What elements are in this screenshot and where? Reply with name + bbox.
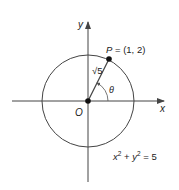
x-axis-label: x bbox=[159, 103, 166, 114]
point-p bbox=[106, 56, 112, 62]
radius-label: √5 bbox=[92, 65, 103, 76]
diagram-canvas: y x O P = (1, 2) √5 θ x2 + y2 = 5 bbox=[0, 0, 179, 190]
angle-arc bbox=[97, 83, 108, 101]
point-p-label: P = (1, 2) bbox=[106, 44, 145, 55]
theta-label: θ bbox=[109, 85, 114, 95]
origin-label: O bbox=[75, 107, 83, 118]
origin-point bbox=[85, 98, 91, 104]
circle-equation-label: x2 + y2 = 5 bbox=[112, 150, 157, 162]
unit-circle-diagram: y x O P = (1, 2) √5 θ x2 + y2 = 5 bbox=[0, 0, 179, 190]
y-axis-label: y bbox=[77, 19, 84, 30]
